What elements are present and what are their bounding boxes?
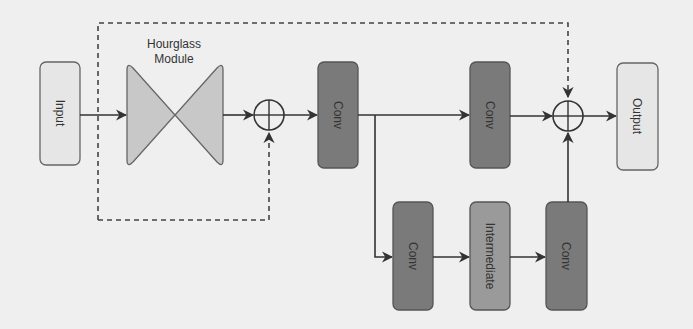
input-node: Input (40, 62, 80, 165)
input-label: Input (53, 100, 67, 127)
output-label: Output (630, 98, 644, 135)
conv-branch-2-label: Conv (559, 242, 573, 270)
output-node: Output (617, 63, 658, 170)
conv-branch-2: Conv (546, 202, 587, 310)
hourglass-title-line2: Module (154, 52, 194, 66)
sum-node-2 (553, 101, 583, 131)
dashed-skip-inner (98, 133, 269, 220)
conv-branch-1: Conv (393, 202, 433, 310)
conv-main-2-label: Conv (483, 101, 497, 129)
conv-branch-1-label: Conv (406, 242, 420, 270)
hourglass-diagram: Input Hourglass Module Conv Conv (0, 0, 693, 329)
conv-main-2: Conv (470, 62, 510, 168)
conv-main-1: Conv (318, 62, 358, 168)
intermediate-label: Intermediate (483, 223, 497, 290)
sum-node-1 (254, 100, 284, 130)
intermediate-node: Intermediate (470, 202, 510, 310)
hourglass-module: Hourglass Module (127, 37, 223, 165)
hourglass-title-line1: Hourglass (147, 37, 201, 51)
conv-main-1-label: Conv (331, 101, 345, 129)
